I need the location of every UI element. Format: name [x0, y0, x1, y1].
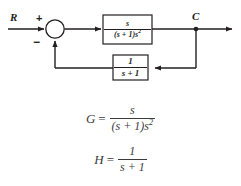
equation-H-equals: = — [107, 152, 114, 168]
equation-G-denominator-exponent: 2 — [149, 118, 153, 127]
summing-junction — [46, 20, 64, 38]
feedback-block-denominator: s + 1 — [122, 69, 140, 78]
block-diagram-figure: R C + − s (s + 1)s2 1 s + 1 G = s (s + 1… — [0, 0, 241, 186]
forward-block-denominator: (s + 1)s2 — [114, 31, 141, 39]
equations-group: G = s (s + 1)s2 H = 1 s + 1 — [0, 98, 241, 186]
equation-G: G = s (s + 1)s2 — [0, 104, 241, 133]
feedback-block-transfer-function: 1 s + 1 — [114, 56, 147, 79]
summing-junction-minus-sign: − — [33, 36, 40, 48]
input-label-R: R — [10, 12, 17, 23]
feedback-return-path — [55, 41, 113, 68]
output-signal-path — [152, 27, 232, 32]
equation-G-denominator-base: (s + 1)s — [112, 119, 149, 133]
equation-H-numerator: 1 — [127, 145, 137, 158]
equation-H-denominator: s + 1 — [118, 161, 147, 174]
forward-block-numerator: s — [126, 20, 129, 28]
equation-G-equals: = — [98, 111, 105, 127]
forward-block-transfer-function: s (s + 1)s2 — [104, 16, 151, 43]
equation-G-fraction: s (s + 1)s2 — [110, 104, 156, 133]
summing-junction-plus-sign: + — [36, 13, 42, 24]
forward-block-denominator-exponent: 2 — [138, 28, 141, 34]
equation-H-fraction: 1 s + 1 — [118, 145, 147, 174]
forward-block-denominator-base: (s + 1)s — [114, 30, 138, 39]
equation-G-denominator: (s + 1)s2 — [110, 120, 156, 133]
equation-G-lhs: G — [86, 111, 95, 127]
feedback-signal-path — [155, 29, 196, 68]
equation-H: H = 1 s + 1 — [0, 145, 241, 174]
equation-H-lhs: H — [94, 152, 103, 168]
output-label-C: C — [192, 11, 199, 22]
equation-G-numerator: s — [128, 104, 137, 117]
feedback-block-numerator: 1 — [128, 57, 133, 66]
